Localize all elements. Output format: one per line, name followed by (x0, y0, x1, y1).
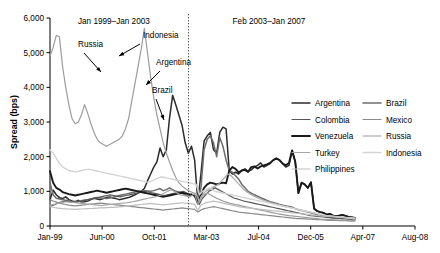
x-tick-label: Apr-07 (351, 233, 376, 242)
x-tick-label: Jan-99 (37, 233, 62, 242)
legend-label-argentina: Argentina (315, 99, 350, 108)
legend-label-brazil: Brazil (386, 99, 407, 108)
annotation-arrowhead-brazil (160, 115, 164, 120)
period-label-2: Feb 2003–Jan 2007 (233, 17, 306, 26)
annotation-label-indonesia: Indonesia (143, 31, 179, 40)
annotation-label-russia: Russia (78, 40, 103, 49)
series-line-brazil (50, 136, 355, 219)
x-tick-label: Jul-04 (247, 233, 270, 242)
period-label-1: Jan 1999–Jan 2003 (78, 17, 150, 26)
x-tick-label: Aug-08 (402, 233, 429, 242)
y-tick-label: 0 (39, 222, 44, 231)
chart-canvas: 01,0002,0003,0004,0005,0006,000Spread (b… (0, 0, 440, 253)
legend-label-philippines: Philippines (315, 165, 355, 174)
y-tick-label: 1,000 (24, 187, 45, 196)
spread-chart: 01,0002,0003,0004,0005,0006,000Spread (b… (0, 0, 440, 253)
legend-label-mexico: Mexico (386, 116, 412, 125)
legend-label-colombia: Colombia (315, 116, 350, 125)
x-tick-label: Dec-05 (298, 233, 325, 242)
legend-label-indonesia: Indonesia (386, 149, 422, 158)
y-tick-label: 4,000 (24, 83, 45, 92)
legend-label-venezuela: Venezuela (315, 132, 354, 141)
annotation-label-brazil: Brazil (152, 86, 173, 95)
y-tick-label: 6,000 (24, 14, 45, 23)
y-tick-label: 3,000 (24, 118, 45, 127)
annotation-arrowhead-indonesia (119, 52, 124, 56)
x-tick-label: Oct-01 (142, 233, 167, 242)
annotation-label-argentina: Argentina (156, 58, 191, 67)
y-tick-label: 5,000 (24, 49, 45, 58)
x-tick-label: Jun-00 (90, 233, 115, 242)
x-tick-label: Mar-03 (193, 233, 219, 242)
series-line-argentina (50, 95, 355, 218)
y-tick-label: 2,000 (24, 153, 45, 162)
y-axis-title: Spread (bps) (9, 95, 19, 149)
legend-label-russia: Russia (386, 132, 411, 141)
legend-label-turkey: Turkey (315, 149, 341, 158)
